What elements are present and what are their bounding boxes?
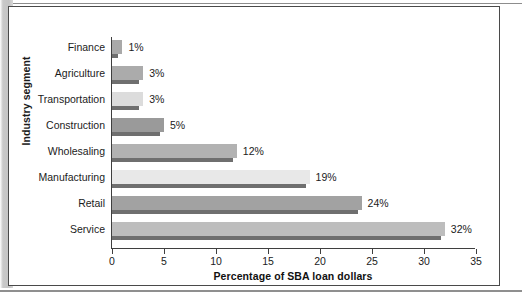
bar-shadow (112, 80, 139, 84)
bar-shadow (112, 210, 358, 214)
x-axis-tick-label: 35 (461, 255, 491, 267)
figure-page: Industry segment FinanceAgricultureTrans… (0, 0, 522, 302)
x-axis-tick-label: 20 (305, 255, 335, 267)
bar-shadow (112, 184, 306, 188)
bar-shadow (112, 54, 118, 58)
bar (112, 118, 164, 132)
y-axis-category-label: Finance (9, 41, 105, 53)
page-rule-bottom (0, 290, 522, 292)
x-axis-tick-label: 5 (149, 255, 179, 267)
y-axis-category-label: Manufacturing (9, 171, 105, 183)
bar-shadow (112, 158, 233, 162)
page-rule-top (0, 3, 522, 4)
bar (112, 170, 310, 184)
bar-value-label: 12% (243, 145, 264, 157)
x-axis-tick (372, 249, 373, 254)
bar-shadow (112, 236, 441, 240)
y-axis-category-label: Wholesaling (9, 145, 105, 157)
bar-item: 3% (112, 66, 203, 84)
x-axis-tick (268, 249, 269, 254)
y-axis-category-label: Transportation (9, 93, 105, 105)
x-axis-line (111, 248, 475, 249)
y-axis-category-label: Retail (9, 197, 105, 209)
bar-item: 12% (112, 144, 297, 162)
bar-shadow (112, 106, 139, 110)
bar-item: 19% (112, 170, 370, 188)
bar-value-label: 5% (170, 119, 185, 131)
bar (112, 66, 143, 80)
bar-value-label: 3% (149, 67, 164, 79)
bar-item: 5% (112, 118, 224, 136)
bar (112, 92, 143, 106)
y-axis-category-label: Agriculture (9, 67, 105, 79)
x-axis-tick-label: 0 (97, 255, 127, 267)
bar-value-label: 19% (316, 171, 337, 183)
bar-item: 3% (112, 92, 203, 110)
x-axis-title: Percentage of SBA loan dollars (111, 270, 475, 282)
bar (112, 144, 237, 158)
bar-value-label: 32% (451, 223, 472, 235)
x-axis-tick-label: 30 (409, 255, 439, 267)
x-axis-tick (164, 249, 165, 254)
bar-item: 24% (112, 196, 422, 214)
x-axis-tick (216, 249, 217, 254)
bar (112, 196, 362, 210)
bar (112, 222, 445, 236)
chart-frame: Industry segment FinanceAgricultureTrans… (8, 6, 500, 286)
bar-value-label: 1% (128, 41, 143, 53)
x-axis-tick-label: 10 (201, 255, 231, 267)
y-axis-category-label: Construction (9, 119, 105, 131)
y-axis-category-label: Service (9, 223, 105, 235)
x-axis-tick (424, 249, 425, 254)
bar-value-label: 3% (149, 93, 164, 105)
x-axis-tick (476, 249, 477, 254)
x-axis-tick-label: 25 (357, 255, 387, 267)
bar-value-label: 24% (368, 197, 389, 209)
bar-item: 1% (112, 40, 182, 58)
x-axis-tick (320, 249, 321, 254)
bar (112, 40, 122, 54)
bar-shadow (112, 132, 160, 136)
bar-item: 32% (112, 222, 505, 240)
x-axis-tick-label: 15 (253, 255, 283, 267)
bar-chart-plot-area: Industry segment FinanceAgricultureTrans… (9, 7, 501, 287)
x-axis-tick (112, 249, 113, 254)
